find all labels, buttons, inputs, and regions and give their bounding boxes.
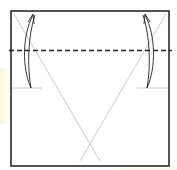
crease-diagonal-right — [80, 14, 166, 161]
crease-diagonal-left — [14, 14, 100, 161]
paper-square — [11, 11, 169, 166]
origami-diagram — [0, 0, 177, 170]
